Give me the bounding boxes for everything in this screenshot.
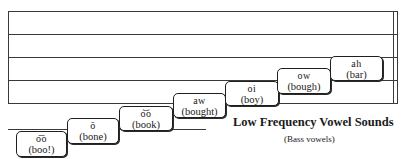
staff-right-bar-outer [397, 11, 398, 104]
diagram-subtitle: (Bass vowels) [284, 134, 335, 144]
example-word: (bone) [79, 131, 106, 142]
diagram-title: Low Frequency Vowel Sounds [233, 115, 394, 130]
example-word: (bar) [346, 69, 366, 80]
vowel-symbol: ow [297, 70, 310, 81]
vowel-box-book: o͝o (book) [119, 106, 173, 131]
staff-right-bar-inner [393, 11, 394, 104]
vowel-symbol: ō [90, 120, 96, 131]
staff-left-bar [8, 11, 9, 104]
vowel-symbol: oi [248, 83, 257, 94]
vowel-box-bar: ah (bar) [330, 56, 383, 81]
example-word: (bought) [181, 106, 217, 117]
vowel-symbol: aw [193, 95, 206, 106]
example-word: (boy) [241, 94, 264, 105]
vowel-symbol: o͝o [141, 108, 152, 119]
vowel-box-bought: aw (bought) [173, 93, 226, 118]
vowel-box-boo: o͞o (boo!) [16, 131, 67, 157]
vowel-symbol: ah [351, 58, 361, 69]
example-word: (book) [132, 119, 160, 130]
vowel-box-boy: oi (boy) [225, 81, 279, 106]
staff-line-1 [8, 11, 397, 12]
vowel-box-bough: ow (bough) [277, 68, 331, 94]
example-word: (bough) [287, 81, 320, 92]
vowel-box-bone: ō (bone) [67, 118, 119, 144]
staff-line-2 [8, 34, 397, 35]
example-word: (boo!) [28, 144, 54, 155]
vowel-symbol: o͞o [36, 133, 47, 144]
